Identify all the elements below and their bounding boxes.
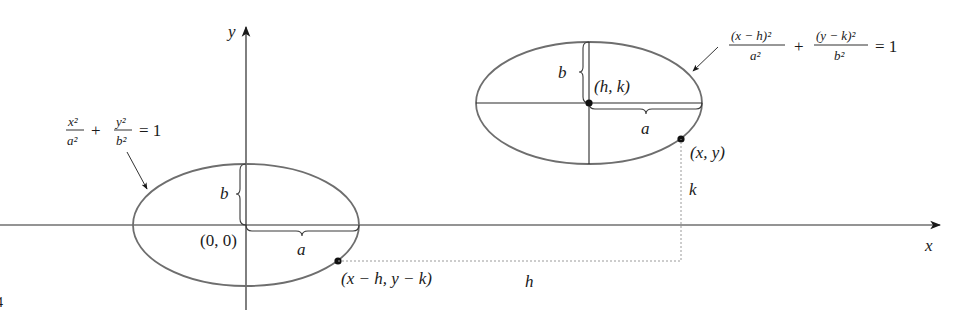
eq1-rhs: = 1 bbox=[139, 121, 161, 140]
label-a-left: a bbox=[297, 240, 306, 259]
eq2-term2-numerator: (y − k)² bbox=[816, 28, 856, 43]
brace-b-right bbox=[579, 42, 589, 103]
origin-label: (0, 0) bbox=[200, 231, 237, 250]
equation-translated-ellipse: (x − h)² a² + (y − k)² b² = 1 bbox=[729, 28, 897, 63]
ellipse-translation-diagram: x y b a (0, 0) (x − h, y − k) x² a² + y²… bbox=[0, 0, 968, 317]
eq1-term2-denominator: b² bbox=[116, 133, 128, 148]
point-shifted-back-label: (x − h, y − k) bbox=[341, 269, 432, 288]
eq2-term2-denominator: b² bbox=[834, 48, 846, 63]
brace-a-left bbox=[246, 225, 359, 236]
equation-standard-ellipse: x² a² + y² b² = 1 bbox=[66, 114, 161, 148]
x-axis-label: x bbox=[924, 236, 933, 255]
eq1-term1-numerator: x² bbox=[67, 114, 79, 129]
brace-b-left bbox=[236, 164, 246, 225]
pointer-arrow-left bbox=[127, 152, 147, 189]
eq2-rhs: = 1 bbox=[875, 37, 897, 56]
brace-a-right bbox=[589, 103, 702, 114]
label-b-left: b bbox=[220, 184, 229, 203]
label-a-right: a bbox=[641, 119, 650, 138]
center-label-hk: (h, k) bbox=[594, 77, 630, 96]
pointer-arrow-right bbox=[693, 47, 718, 71]
eq1-term1-denominator: a² bbox=[67, 133, 79, 148]
center-point-hk bbox=[585, 99, 592, 106]
shift-k-label: k bbox=[689, 180, 697, 199]
shift-connector bbox=[338, 139, 681, 261]
eq2-term1-denominator: a² bbox=[750, 48, 762, 63]
label-b-right: b bbox=[558, 63, 567, 82]
eq1-term2-numerator: y² bbox=[114, 114, 127, 129]
point-xy-label: (x, y) bbox=[690, 143, 725, 162]
shift-h-label: h bbox=[525, 272, 534, 291]
eq1-plus: + bbox=[91, 121, 101, 140]
eq2-term1-numerator: (x − h)² bbox=[731, 28, 772, 43]
figure-number-fragment: 4 bbox=[0, 295, 3, 310]
y-axis-label: y bbox=[226, 22, 236, 41]
eq2-plus: + bbox=[794, 37, 804, 56]
